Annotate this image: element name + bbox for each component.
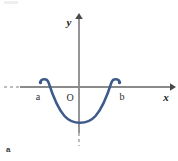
point-label-a: a xyxy=(36,91,41,102)
origin-label: O xyxy=(66,92,73,103)
graph-canvas: y x O a b xyxy=(0,0,178,161)
x-axis-label: x xyxy=(162,91,169,103)
x-axis-arrow-icon xyxy=(170,83,176,91)
math-figure: y x O a b a xyxy=(0,0,178,161)
point-label-b: b xyxy=(120,91,125,102)
figure-caption: a xyxy=(6,145,10,155)
plotted-curve xyxy=(40,79,119,123)
y-axis-label: y xyxy=(65,16,72,28)
curve-endpoint-a-dot xyxy=(39,81,42,84)
curve-endpoint-b-dot xyxy=(118,81,121,84)
y-axis-arrow-icon xyxy=(75,13,83,19)
